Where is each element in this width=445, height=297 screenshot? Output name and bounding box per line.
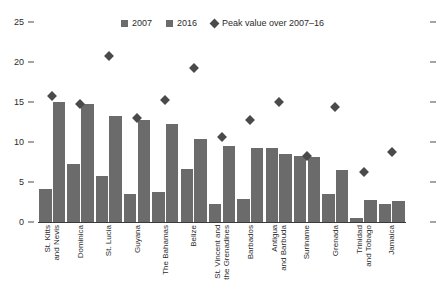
x-axis-category-label: Antigua and Barbuda [264,225,292,297]
x-axis-category-text: Guyana [133,225,142,253]
bar-2007 [209,204,221,222]
bar-2016 [364,200,376,222]
bar-2007 [379,204,391,222]
y-tick-mark [28,222,34,223]
x-axis-category-label: The Bahamas [151,225,179,297]
bar-group [379,22,405,222]
x-axis-category-label: St. Lucia [95,225,123,297]
x-axis-labels: St. Kitts and NevisDominicaSt. LuciaGuya… [38,225,406,297]
y-tick-mark-right [430,102,436,103]
x-axis-category-label: Dominica [66,225,94,297]
bar-group [294,22,320,222]
bar-2007 [266,148,278,222]
y-tick-label: 20 [14,57,24,67]
x-axis-category-text: Barbados [246,225,255,259]
x-axis-baseline [38,222,406,223]
bar-2007 [181,169,193,222]
bar-group [266,22,292,222]
x-axis-category-text: Grenada [331,225,340,256]
bar-2016 [308,157,320,222]
bar-2016 [166,124,178,222]
y-tick-mark-right [430,182,436,183]
bar-2016 [109,116,121,222]
x-axis-category-label: Jamaica [378,225,406,297]
x-axis-category-label: St. Kitts and Nevis [38,225,66,297]
y-tick-mark-right [430,62,436,63]
bar-group [39,22,65,222]
x-axis-category-label: Grenada [321,225,349,297]
x-axis-category-text: St. Vincent and the Grenadines [213,225,231,280]
bar-2016 [138,120,150,222]
bar-2016 [392,201,404,222]
bar-group [181,22,207,222]
bar-2007 [237,199,249,222]
bar-2007 [124,194,136,222]
bar-2016 [81,104,93,222]
x-axis-category-text: St. Lucia [104,225,113,256]
y-tick-label: 5 [19,177,24,187]
bar-2016 [279,154,291,222]
y-tick-label: 25 [14,17,24,27]
x-axis-category-text: Antigua and Barbuda [270,225,288,271]
bar-2007 [67,164,79,222]
x-axis-category-text: The Bahamas [161,225,170,275]
x-axis-category-label: Trinidad and Tobago [349,225,377,297]
y-tick-mark [28,142,34,143]
x-axis-category-label: Belize [180,225,208,297]
y-tick-mark-right [430,22,436,23]
bar-2016 [53,102,65,222]
y-tick-mark [28,182,34,183]
y-tick-mark [28,102,34,103]
bar-2016 [223,146,235,222]
bar-2007 [39,189,51,222]
y-tick-mark-right [430,142,436,143]
x-axis-category-text: Trinidad and Tobago [355,225,373,267]
bar-2016 [194,139,206,222]
x-axis-category-label: Suriname [293,225,321,297]
y-axis: 0510152025 [0,0,24,297]
x-axis-category-label: St. Vincent and the Grenadines [208,225,236,297]
bar-2016 [251,148,263,222]
y-tick-mark [28,62,34,63]
bar-group [350,22,376,222]
x-axis-category-text: St. Kitts and Nevis [43,225,61,261]
y-tick-label: 15 [14,97,24,107]
x-axis-category-label: Barbados [236,225,264,297]
y-tick-mark [28,22,34,23]
bar-2007 [294,156,306,222]
x-axis-category-text: Belize [189,225,198,247]
bar-2007 [96,176,108,222]
y-tick-mark-right [430,222,436,223]
bar-group [152,22,178,222]
bar-group [209,22,235,222]
y-tick-label: 10 [14,137,24,147]
bar-group [322,22,348,222]
x-axis-category-text: Suriname [302,225,311,259]
bar-2007 [152,192,164,222]
x-axis-category-text: Jamaica [387,225,396,255]
bar-chart: 2007 2016 Peak value over 2007–16 051015… [0,0,445,297]
x-axis-category-text: Dominica [76,225,85,258]
bar-group [67,22,93,222]
x-axis-category-label: Guyana [123,225,151,297]
bar-2007 [322,194,334,222]
y-tick-label: 0 [19,217,24,227]
plot-area [38,22,406,222]
bar-2016 [336,170,348,222]
